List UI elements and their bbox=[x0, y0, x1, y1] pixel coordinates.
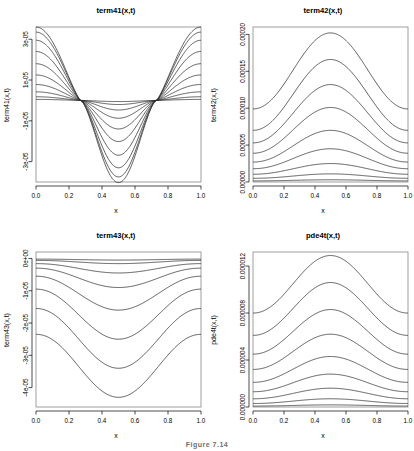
curve-pde4t-t2 bbox=[253, 399, 408, 404]
y-tick-pde4t-0: 0.000000 bbox=[239, 393, 246, 420]
chart-title-pde4t: pde4t(x,t) bbox=[306, 231, 341, 240]
y-tick-term41-2: -1e-05 bbox=[22, 111, 29, 130]
x-tick-pde4t-0: 0.0 bbox=[249, 417, 258, 424]
x-tick-term43-2: 0.4 bbox=[98, 417, 107, 424]
x-tick-pde4t-5: 1.0 bbox=[404, 417, 413, 424]
curve-term43-t8 bbox=[36, 334, 201, 397]
y-tick-term41-1: 1e-05 bbox=[22, 71, 29, 88]
curve-pde4t-t9 bbox=[253, 256, 408, 314]
y-tick-pde4t-2: 0.000008 bbox=[239, 299, 246, 326]
x-tick-pde4t-1: 0.2 bbox=[280, 417, 289, 424]
y-tick-term41-0: 3e-05 bbox=[22, 31, 29, 48]
curve-term41-t1 bbox=[36, 99, 201, 101]
y-tick-term42-3: 0.00015 bbox=[239, 59, 246, 82]
curve-term41-t7 bbox=[36, 51, 201, 155]
x-axis-pde4t: 0.00.20.40.60.81.0 bbox=[249, 411, 413, 424]
x-tick-term41-1: 0.2 bbox=[65, 192, 74, 199]
figure-panel-grid: term41(x,t) x term41(x,t) 0.00.20.40.60.… bbox=[0, 0, 414, 451]
x-tick-term41-2: 0.4 bbox=[98, 192, 107, 199]
x-tick-term43-3: 0.6 bbox=[131, 417, 140, 424]
x-tick-pde4t-3: 0.6 bbox=[342, 417, 351, 424]
curve-pde4t-t3 bbox=[253, 388, 408, 399]
y-axis-label-term43: term43(x,t) bbox=[3, 313, 11, 347]
y-axis-label-term42: term42(x,t) bbox=[210, 88, 218, 122]
x-tick-term42-0: 0.0 bbox=[249, 192, 258, 199]
curve-pde4t-t4 bbox=[253, 374, 408, 392]
y-tick-term43-0: 0e+00 bbox=[22, 249, 29, 267]
curve-pde4t-t1 bbox=[253, 405, 408, 406]
y-tick-term43-2: -2e-05 bbox=[22, 313, 29, 332]
curve-term42-t5 bbox=[253, 130, 408, 162]
y-axis-term41: 3e-051e-05-1e-05-3e-05 bbox=[22, 31, 32, 171]
chart-panel-term41: term41(x,t) x term41(x,t) 0.00.20.40.60.… bbox=[0, 0, 207, 225]
x-axis-label-term42: x bbox=[321, 207, 325, 214]
chart-svg-pde4t: pde4t(x,t) x pde4t(x,t) 0.00.20.40.60.81… bbox=[207, 225, 414, 451]
plot-area-term41 bbox=[36, 27, 201, 183]
x-tick-term43-0: 0.0 bbox=[32, 417, 41, 424]
y-tick-term42-4: 0.00020 bbox=[239, 23, 246, 46]
x-tick-term42-3: 0.6 bbox=[342, 192, 351, 199]
y-axis-label-pde4t: pde4t(x,t) bbox=[210, 315, 218, 345]
curve-term42-t2 bbox=[253, 174, 408, 178]
x-tick-term42-2: 0.4 bbox=[311, 192, 320, 199]
y-axis-term42: 0.000000.000050.000100.000150.00020 bbox=[239, 23, 249, 194]
y-axis-term43: 0e+00-1e-05-2e-05-3e-05-4e-05 bbox=[22, 249, 32, 397]
y-tick-term43-3: -3e-05 bbox=[22, 346, 29, 365]
x-tick-term42-1: 0.2 bbox=[280, 192, 289, 199]
y-tick-term42-0: 0.00000 bbox=[239, 170, 246, 193]
y-axis-label-term41: term41(x,t) bbox=[3, 88, 11, 122]
plot-area-term42 bbox=[253, 27, 408, 182]
y-tick-term42-2: 0.00010 bbox=[239, 96, 246, 119]
x-tick-term41-3: 0.6 bbox=[131, 192, 140, 199]
x-axis-label-term41: x bbox=[114, 207, 118, 214]
chart-svg-term41: term41(x,t) x term41(x,t) 0.00.20.40.60.… bbox=[0, 0, 207, 226]
curve-pde4t-t5 bbox=[253, 357, 408, 383]
x-tick-term41-5: 1.0 bbox=[197, 192, 206, 199]
chart-title-term41: term41(x,t) bbox=[97, 6, 136, 15]
x-axis-term43: 0.00.20.40.60.81.0 bbox=[32, 411, 206, 424]
x-axis-term41: 0.00.20.40.60.81.0 bbox=[32, 186, 206, 199]
chart-svg-term43: term43(x,t) x term43(x,t) 0.00.20.40.60.… bbox=[0, 225, 207, 451]
y-tick-pde4t-1: 0.000004 bbox=[239, 346, 246, 373]
chart-panel-term43: term43(x,t) x term43(x,t) 0.00.20.40.60.… bbox=[0, 225, 207, 450]
curve-term42-t7 bbox=[253, 85, 408, 143]
curve-term43-t1 bbox=[36, 259, 201, 260]
curve-term42-t4 bbox=[253, 149, 408, 169]
curve-pde4t-t7 bbox=[253, 310, 408, 355]
x-tick-term41-0: 0.0 bbox=[32, 192, 41, 199]
curve-term42-t9 bbox=[253, 33, 408, 109]
y-tick-term41-3: -3e-05 bbox=[22, 152, 29, 171]
chart-panel-pde4t: pde4t(x,t) x pde4t(x,t) 0.00.20.40.60.81… bbox=[207, 225, 414, 450]
x-tick-term42-4: 0.8 bbox=[373, 192, 382, 199]
curve-term43-t5 bbox=[36, 276, 201, 310]
y-tick-pde4t-3: 0.000012 bbox=[239, 252, 246, 279]
plot-area-pde4t bbox=[253, 252, 408, 407]
x-tick-term43-4: 0.8 bbox=[164, 417, 173, 424]
chart-title-term42: term42(x,t) bbox=[304, 6, 343, 15]
x-tick-pde4t-2: 0.4 bbox=[311, 417, 320, 424]
y-axis-pde4t: 0.0000000.0000040.0000080.000012 bbox=[239, 252, 249, 420]
x-axis-term42: 0.00.20.40.60.81.0 bbox=[249, 186, 413, 199]
curve-term43-t6 bbox=[36, 289, 201, 339]
curve-term43-t4 bbox=[36, 268, 201, 287]
curve-pde4t-t6 bbox=[253, 334, 408, 369]
curve-term41-t2 bbox=[36, 97, 201, 105]
curve-term41-t5 bbox=[36, 75, 201, 129]
x-tick-term43-1: 0.2 bbox=[65, 417, 74, 424]
curve-pde4t-t8 bbox=[253, 283, 408, 336]
y-tick-term43-1: -1e-05 bbox=[22, 281, 29, 300]
curve-term41-t3 bbox=[36, 92, 201, 110]
chart-svg-term42: term42(x,t) x term42(x,t) 0.00.20.40.60.… bbox=[207, 0, 414, 226]
plot-area-term43 bbox=[36, 252, 201, 407]
x-tick-term43-5: 1.0 bbox=[197, 417, 206, 424]
x-tick-pde4t-4: 0.8 bbox=[373, 417, 382, 424]
figure-caption: Figure 7.14 bbox=[0, 436, 414, 451]
curve-term43-t7 bbox=[36, 309, 201, 369]
curve-term43-t2 bbox=[36, 260, 201, 263]
x-tick-term41-4: 0.8 bbox=[164, 192, 173, 199]
curve-term41-t6 bbox=[36, 64, 201, 142]
y-tick-term42-1: 0.00005 bbox=[239, 133, 246, 156]
curve-term41-t8 bbox=[36, 40, 201, 168]
chart-panel-term42: term42(x,t) x term42(x,t) 0.00.20.40.60.… bbox=[207, 0, 414, 225]
y-tick-term43-4: -4e-05 bbox=[22, 378, 29, 397]
